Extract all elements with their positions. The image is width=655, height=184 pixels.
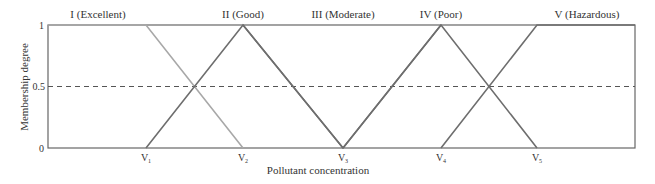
y-tick-1: 1 [39, 20, 44, 31]
y-tick-0-5: 0.5 [33, 81, 46, 92]
x-tick-v5: V5 [532, 152, 542, 164]
class-label-good: II (Good) [222, 8, 264, 21]
class-label-excellent: I (Excellent) [70, 8, 126, 21]
class-label-poor: IV (Poor) [420, 8, 463, 21]
x-tick-v3: V3 [338, 152, 348, 164]
class-label-hazardous: V (Hazardous) [555, 8, 620, 21]
x-tick-v4: V4 [436, 152, 446, 164]
y-axis-label: Membership degree [18, 43, 30, 131]
x-tick-v1: V1 [141, 152, 151, 164]
x-axis-label: Pollutant concentration [267, 164, 370, 176]
class-label-moderate: III (Moderate) [311, 8, 375, 21]
x-tick-v2: V2 [238, 152, 248, 164]
y-tick-0: 0 [39, 143, 44, 154]
membership-function-chart: 1 0.5 0 Membership degree V1 V2 V3 V4 V5… [0, 0, 655, 184]
